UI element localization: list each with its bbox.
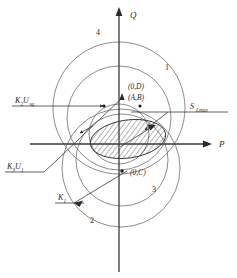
s-lmax-base-sub: Lmax — [195, 107, 208, 113]
p-axis-arrowhead — [203, 141, 212, 148]
q-axis-label: Q — [130, 10, 137, 20]
k2-usq-second-sub: sq — [30, 101, 35, 107]
k2-usq-target-dot — [102, 104, 105, 107]
annotation-k1: K 1 — [57, 193, 67, 204]
point-label-center-d: (0,D) — [128, 82, 145, 91]
point-label-center-ab: (A,B) — [128, 93, 145, 102]
quadrant-label-2: 2 — [90, 216, 94, 225]
center-c-dot — [120, 169, 123, 172]
k3-u1-leader-seg1 — [44, 160, 57, 172]
ab-marker-arrowhead — [119, 93, 124, 100]
annotation-k2-usq: K 2 U sq — [14, 96, 35, 107]
quadrant-label-4: 4 — [96, 28, 100, 37]
quadrant-label-3: 3 — [152, 185, 156, 194]
annotation-s-lmax: S Lmax — [190, 102, 208, 113]
s-lmax-target-dot — [138, 104, 141, 107]
k3-u1-second-sub: 1 — [21, 167, 24, 173]
pq-diagram-canvas: Q P 4 1 2 3 (0,D) (A,B) (0,C) K 2 U sq K… — [0, 0, 237, 278]
q-axis-arrowhead — [116, 7, 123, 16]
pq-diagram-container: Q P 4 1 2 3 (0,D) (A,B) (0,C) K 2 U sq K… — [0, 0, 237, 278]
quadrant-label-1: 1 — [165, 63, 169, 72]
annotation-k3-u1: K 3 U 1 — [6, 162, 24, 173]
k1-leader-arrowhead — [74, 201, 83, 207]
feasible-region-fill — [88, 115, 169, 163]
k1-base-sub: 1 — [64, 198, 67, 204]
point-label-center-c: (0,C) — [130, 168, 146, 177]
p-axis-label: P — [218, 139, 225, 149]
s-lmax-base: S — [190, 102, 194, 111]
